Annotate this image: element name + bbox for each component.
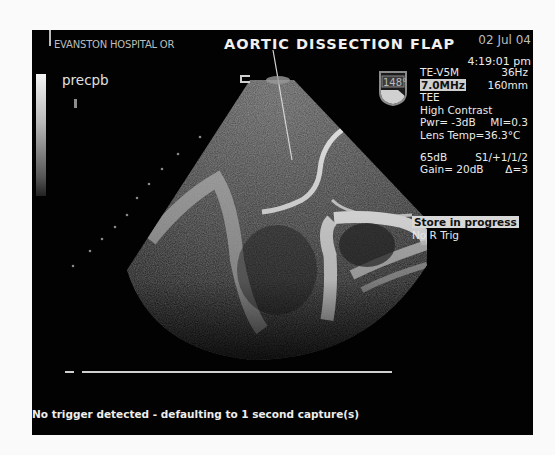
ultrasound-display: EVANSTON HOSPITAL OR AORTIC DISSECTION F…	[32, 30, 533, 435]
study-label: precpb	[62, 72, 109, 88]
date: 02 Jul 04	[478, 33, 531, 47]
lens-temp: Lens Temp=36.3°C	[420, 129, 528, 142]
ecg-marker	[65, 371, 74, 373]
frame-rate: 36Hz	[501, 66, 528, 79]
image-title: AORTIC DISSECTION FLAP	[224, 36, 455, 52]
transducer: TE-V5M	[420, 66, 459, 79]
focus-marker	[74, 99, 77, 108]
probe-angle: 148°	[383, 77, 407, 88]
grayscale-bar	[36, 74, 46, 196]
acquisition-settings: TE-V5M36Hz 7.0MHz160mm TEE High Contrast…	[420, 66, 528, 176]
sector-orientation-icon	[240, 75, 250, 83]
depth: 160mm	[488, 79, 529, 92]
left-edge-marker	[49, 30, 51, 46]
store-status: Store in progress	[412, 216, 519, 228]
preset: High Contrast	[420, 104, 528, 117]
power: Pwr= -3dB	[420, 116, 476, 129]
ecg-baseline	[82, 371, 392, 373]
trigger-status: No R Trig	[412, 229, 459, 241]
processing: S1/+1/1/2	[475, 151, 528, 164]
gain: Gain= 20dB	[420, 163, 484, 176]
institution-name: EVANSTON HOSPITAL OR	[54, 39, 174, 50]
dynamic-range: 65dB	[420, 151, 447, 164]
mode: TEE	[420, 91, 528, 104]
frequency: 7.0MHz	[420, 79, 466, 92]
footer-message: No trigger detected - defaulting to 1 se…	[32, 408, 359, 420]
probe-angle-icon	[378, 70, 408, 106]
delta: Δ=3	[505, 163, 528, 176]
mechanical-index: MI=0.3	[490, 116, 528, 129]
